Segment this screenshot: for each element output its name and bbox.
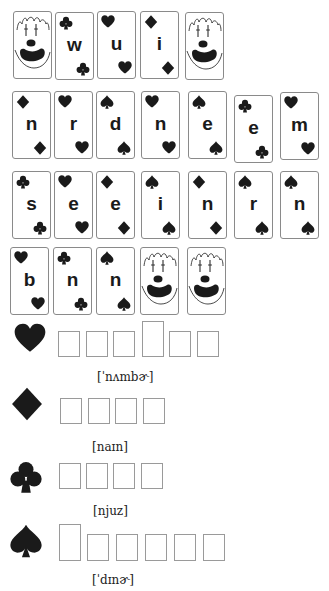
card-letter: w <box>56 35 93 55</box>
joker-card[interactable] <box>187 247 226 315</box>
joker-card[interactable] <box>140 247 179 315</box>
diamond-icon <box>33 141 47 155</box>
club-icon <box>16 175 30 189</box>
spade-icon <box>238 175 252 189</box>
letter-card-m-heart[interactable]: m <box>280 92 319 160</box>
phonetic-hint: [ˈdɪnɚ] <box>92 573 134 587</box>
letter-answer-box[interactable] <box>86 331 108 357</box>
diamond-icon <box>209 221 223 235</box>
joker-card[interactable] <box>185 12 224 80</box>
joker-card[interactable] <box>13 11 52 79</box>
letter-answer-box[interactable] <box>113 463 135 489</box>
diamond-icon <box>117 221 131 235</box>
letter-card-n-diamond[interactable]: n <box>188 171 227 239</box>
heart-icon <box>58 95 72 109</box>
letter-card-n-heart[interactable]: n <box>141 91 180 159</box>
spade-icon <box>100 95 114 109</box>
heart-icon <box>10 323 50 359</box>
letter-card-b-heart[interactable]: b <box>10 247 49 315</box>
spade-icon <box>8 524 44 562</box>
card-letter: i <box>142 194 179 214</box>
letter-answer-box[interactable] <box>203 534 225 561</box>
letter-card-r-heart[interactable]: r <box>54 91 93 159</box>
phonetic-hint: [naɪn] <box>92 440 128 454</box>
phonetic-hint: [ˈnʌmbɚ] <box>97 370 153 384</box>
heart-icon <box>118 61 132 75</box>
spade-icon <box>162 221 176 235</box>
card-letter: n <box>142 114 179 134</box>
card-letter: e <box>189 114 226 134</box>
card-letter: s <box>13 194 50 214</box>
heart-icon <box>162 141 176 155</box>
letter-card-n-spade[interactable]: n <box>280 171 319 239</box>
club-icon <box>57 251 71 265</box>
spade-icon <box>209 141 223 155</box>
letter-card-w-club[interactable]: w <box>55 12 94 80</box>
club-icon <box>8 460 44 498</box>
card-letter: n <box>54 270 91 290</box>
heart-icon <box>14 251 28 265</box>
letter-card-e-heart[interactable]: e <box>54 171 93 239</box>
card-letter: n <box>281 194 318 214</box>
letter-card-e-diamond[interactable]: e <box>96 171 135 239</box>
letter-card-n-spade[interactable]: n <box>96 247 135 315</box>
letter-answer-box-tall[interactable] <box>142 321 164 357</box>
letter-answer-box[interactable] <box>174 534 196 561</box>
spade-icon <box>117 297 131 311</box>
letter-card-r-spade[interactable]: r <box>234 171 273 239</box>
card-letter: m <box>281 115 318 135</box>
spade-icon <box>117 141 131 155</box>
letter-answer-box[interactable] <box>169 331 191 357</box>
letter-card-n-diamond[interactable]: n <box>12 91 51 159</box>
phonetic-hint: [njuz] <box>93 504 128 518</box>
spade-icon <box>255 221 269 235</box>
card-letter: d <box>97 114 134 134</box>
letter-answer-box[interactable] <box>113 331 135 357</box>
letter-answer-box[interactable] <box>86 463 108 489</box>
diamond-icon <box>16 95 30 109</box>
card-letter: n <box>13 114 50 134</box>
letter-answer-box[interactable] <box>59 463 81 489</box>
letter-answer-box[interactable] <box>115 398 137 424</box>
letter-answer-box[interactable] <box>197 331 219 357</box>
diamond-icon <box>10 386 44 426</box>
spade-icon <box>284 175 298 189</box>
card-letter: r <box>235 194 272 214</box>
letter-card-e-club[interactable]: e <box>234 95 273 163</box>
diamond-icon <box>161 61 175 75</box>
diamond-icon <box>144 15 158 29</box>
letter-card-s-club[interactable]: s <box>12 171 51 239</box>
letter-card-u-heart[interactable]: u <box>97 11 136 79</box>
letter-card-i-spade[interactable]: i <box>141 171 180 239</box>
letter-answer-box[interactable] <box>60 398 82 424</box>
letter-answer-box[interactable] <box>58 331 80 357</box>
spade-icon <box>100 251 114 265</box>
letter-card-n-club[interactable]: n <box>53 247 92 315</box>
card-letter: e <box>55 194 92 214</box>
letter-card-e-spade[interactable]: e <box>188 91 227 159</box>
club-icon <box>238 99 252 113</box>
card-letter: r <box>55 114 92 134</box>
card-letter: i <box>141 34 178 54</box>
letter-answer-box[interactable] <box>88 398 110 424</box>
spade-icon <box>192 95 206 109</box>
club-icon <box>255 145 269 159</box>
letter-answer-box[interactable] <box>141 463 163 489</box>
letter-answer-box[interactable] <box>87 534 109 561</box>
heart-icon <box>301 142 315 156</box>
letter-answer-box[interactable] <box>145 534 167 561</box>
club-icon <box>59 16 73 30</box>
letter-card-d-spade[interactable]: d <box>96 91 135 159</box>
card-letter: e <box>97 194 134 214</box>
heart-icon <box>31 297 45 311</box>
letter-card-i-diamond[interactable]: i <box>140 11 179 79</box>
card-letter: u <box>98 34 135 54</box>
letter-answer-box-tall[interactable] <box>59 524 81 561</box>
diamond-icon <box>100 175 114 189</box>
letter-answer-box[interactable] <box>143 398 165 424</box>
spade-icon <box>145 175 159 189</box>
spade-icon <box>301 221 315 235</box>
heart-icon <box>101 15 115 29</box>
card-letter: b <box>11 270 48 290</box>
letter-answer-box[interactable] <box>116 534 138 561</box>
